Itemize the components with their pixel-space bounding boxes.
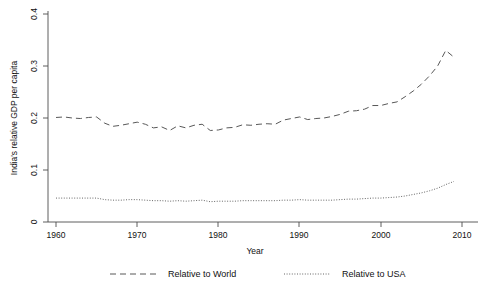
legend-item-relative-to-world[interactable]: Relative to World: [110, 269, 236, 279]
legend-label-usa: Relative to USA: [342, 269, 406, 279]
y-axis: [43, 11, 48, 222]
x-tick-label-1970: 1970: [128, 230, 147, 240]
legend-label-world: Relative to World: [168, 269, 236, 279]
y-tick-label-0: 0: [29, 219, 39, 224]
y-tick-label-0.4: 0.4: [29, 8, 39, 20]
legend-item-relative-to-usa[interactable]: Relative to USA: [284, 269, 406, 279]
x-tick-label-2010: 2010: [453, 230, 472, 240]
x-axis: [48, 222, 478, 227]
x-axis-tick-labels: 1960 1970 1980 1990 2000 2010: [47, 230, 472, 240]
relative-gdp-line-chart: India's relative GDP per capita 0.4 0.3 …: [0, 0, 496, 295]
y-tick-label-0.3: 0.3: [29, 60, 39, 72]
chart-container: India's relative GDP per capita 0.4 0.3 …: [0, 0, 496, 295]
y-tick-label-0.2: 0.2: [29, 112, 39, 124]
x-tick-label-1990: 1990: [290, 230, 309, 240]
series-line-relative-to-world: [56, 50, 454, 130]
y-axis-title-group: India's relative GDP per capita: [9, 61, 19, 176]
series-line-relative-to-usa: [56, 181, 454, 201]
plot-area: [56, 50, 454, 201]
y-axis-tick-labels: 0.4 0.3 0.2 0.1 0: [29, 8, 39, 225]
x-tick-label-2000: 2000: [372, 230, 391, 240]
x-axis-title: Year: [246, 246, 263, 256]
legend: Relative to World Relative to USA: [110, 269, 406, 279]
y-axis-title: India's relative GDP per capita: [9, 61, 19, 176]
y-tick-label-0.1: 0.1: [29, 164, 39, 176]
x-tick-label-1980: 1980: [209, 230, 228, 240]
x-tick-label-1960: 1960: [47, 230, 66, 240]
